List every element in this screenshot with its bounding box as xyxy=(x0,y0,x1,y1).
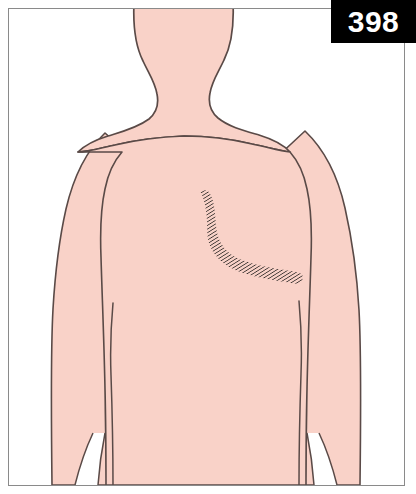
anatomy-illustration xyxy=(9,9,404,485)
figure-frame xyxy=(8,8,405,486)
figure-root: 398 xyxy=(0,0,416,494)
figure-number-text: 398 xyxy=(348,7,400,37)
figure-number-badge: 398 xyxy=(331,0,416,43)
